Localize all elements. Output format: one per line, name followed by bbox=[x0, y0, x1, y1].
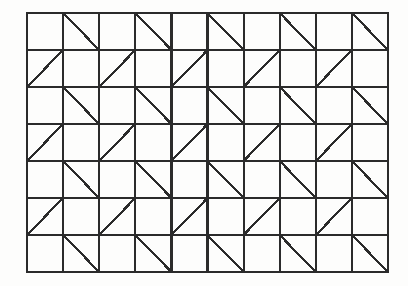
tiling-diagram bbox=[0, 0, 408, 286]
figure-page bbox=[0, 0, 408, 286]
page-background bbox=[0, 0, 408, 286]
